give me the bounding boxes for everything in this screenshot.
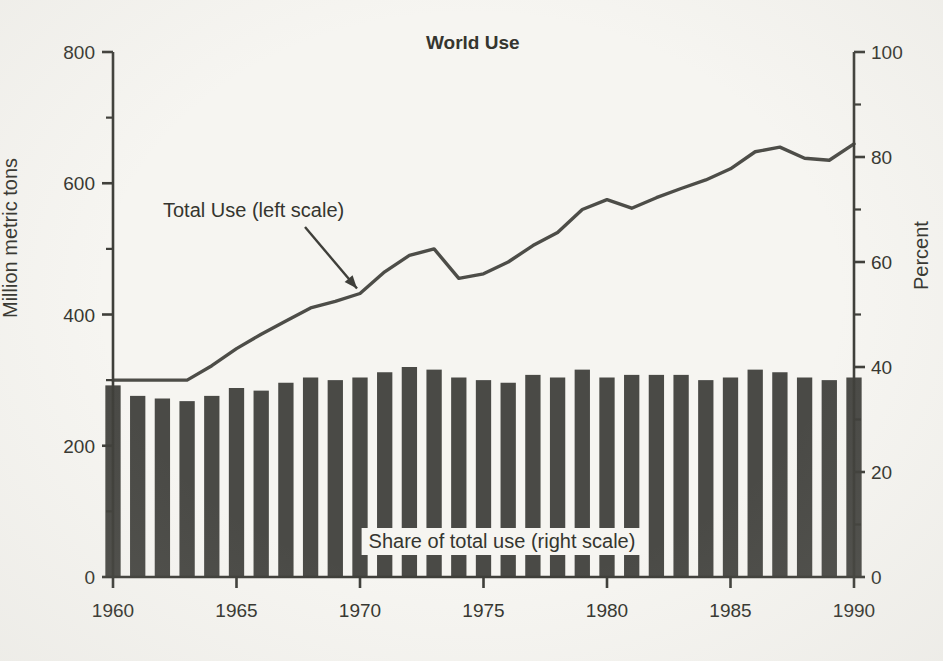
line-path (113, 144, 854, 380)
y-axis-tick-label-right: 40 (871, 358, 892, 377)
y-axis-tick-label-right: 100 (871, 43, 903, 62)
bar (748, 370, 763, 577)
bar (328, 380, 343, 577)
x-axis-tick-label: 1980 (586, 601, 628, 620)
bar (797, 378, 812, 578)
bar (204, 396, 219, 577)
y-axis-tick-label-right: 0 (871, 568, 882, 587)
y-axis-tick-label-left: 200 (0, 436, 95, 455)
y-axis-tick-label-left: 0 (0, 568, 95, 587)
y-axis-tick-label-right: 80 (871, 148, 892, 167)
y-axis-tick-label-right: 60 (871, 253, 892, 272)
annotation-arrow (305, 227, 357, 289)
y-axis-tick-label-left: 600 (0, 174, 95, 193)
y-axis-tick-label-right: 20 (871, 463, 892, 482)
bar (723, 378, 738, 578)
bar (278, 383, 293, 577)
chart-figure: World Use Million metric tons Percent To… (0, 0, 943, 661)
x-axis-tick-label: 1965 (215, 601, 257, 620)
bar (130, 396, 145, 577)
annotation-share-of-total-use-label: Share of total use (right scale) (362, 528, 643, 555)
line-series-total-use (113, 144, 854, 380)
bar (303, 378, 318, 578)
annotation-total-use-label: Total Use (left scale) (163, 200, 344, 220)
x-axis-tick-label: 1970 (339, 601, 381, 620)
bar (254, 391, 269, 577)
chart-canvas (0, 0, 943, 661)
bar (179, 401, 194, 577)
bar (229, 388, 244, 577)
x-axis-tick-label: 1985 (709, 601, 751, 620)
bar (649, 375, 664, 577)
page-title: World Use (426, 33, 520, 52)
y-axis-tick-label-left: 400 (0, 305, 95, 324)
x-axis-tick-label: 1960 (92, 601, 134, 620)
bar (155, 399, 170, 578)
bar (673, 375, 688, 577)
x-axis-tick-label: 1990 (833, 601, 875, 620)
x-axis-tick-label: 1975 (462, 601, 504, 620)
y-axis-label-right-text: Percent (911, 221, 931, 290)
y-axis-tick-label-left: 800 (0, 43, 95, 62)
bar (772, 372, 787, 577)
bar (822, 380, 837, 577)
bar (698, 380, 713, 577)
